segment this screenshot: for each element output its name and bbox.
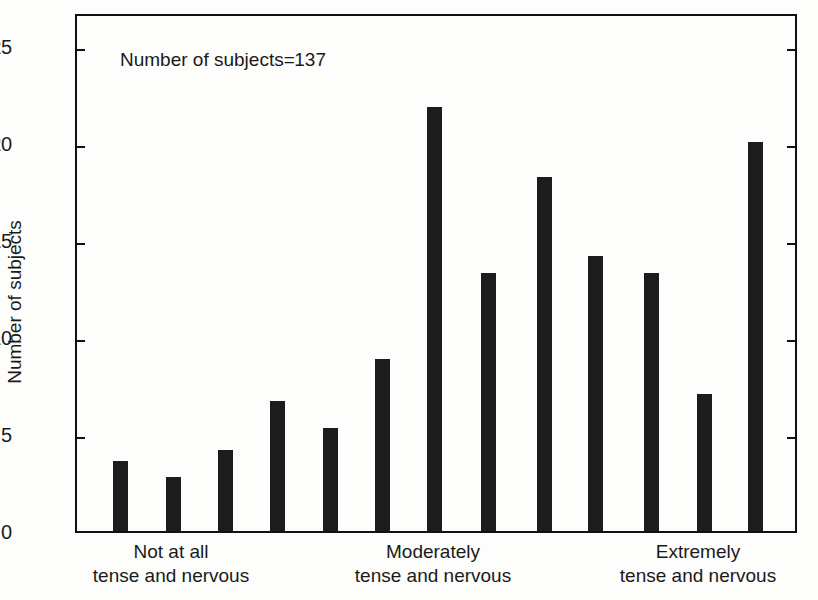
y-tick-label-20: 20 bbox=[0, 134, 12, 154]
x-group-label-extremely: Extremely tense and nervous bbox=[578, 540, 818, 588]
y-tick-label-0: 0 bbox=[0, 522, 12, 542]
bar bbox=[218, 450, 233, 531]
bar bbox=[697, 394, 712, 531]
bar bbox=[748, 142, 763, 531]
y-axis-title-text: Number of subjects bbox=[4, 172, 26, 432]
bar bbox=[375, 359, 390, 531]
y-tick-label-25: 25 bbox=[0, 37, 12, 57]
plot-area: Number of subjects=137 bbox=[75, 14, 797, 533]
x-group-line2: tense and nervous bbox=[578, 564, 818, 588]
figure: Number of subjects 25 20 15 10 5 0 Numbe… bbox=[0, 0, 818, 600]
x-group-line1: Not at all bbox=[51, 540, 291, 564]
bar bbox=[427, 107, 442, 531]
bar bbox=[113, 461, 128, 531]
bar bbox=[588, 256, 603, 531]
bar bbox=[323, 428, 338, 531]
bar bbox=[270, 401, 285, 531]
x-group-label-not-at-all: Not at all tense and nervous bbox=[51, 540, 291, 588]
x-group-line1: Extremely bbox=[578, 540, 818, 564]
y-tick-label-10: 10 bbox=[0, 328, 12, 348]
y-tick-label-15: 15 bbox=[0, 231, 12, 251]
x-group-line2: tense and nervous bbox=[51, 564, 291, 588]
bar bbox=[537, 177, 552, 531]
x-group-line1: Moderately bbox=[313, 540, 553, 564]
x-group-label-moderately: Moderately tense and nervous bbox=[313, 540, 553, 588]
bar bbox=[166, 477, 181, 531]
y-tick-label-5: 5 bbox=[0, 425, 12, 445]
bar bbox=[644, 273, 659, 531]
x-group-line2: tense and nervous bbox=[313, 564, 553, 588]
bars-layer bbox=[77, 16, 795, 531]
bar bbox=[481, 273, 496, 531]
